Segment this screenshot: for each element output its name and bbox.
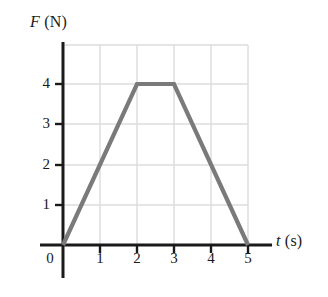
x-tick-label-5: 5	[239, 250, 257, 267]
force-time-chart: F (N) t (s) 0 1 2 3 4 5 1 2 3 4	[0, 0, 328, 297]
x-tick-label-1: 1	[91, 250, 109, 267]
x-axis	[40, 245, 272, 253]
y-tick-label-3: 3	[34, 115, 50, 132]
x-tick-label-0: 0	[41, 250, 59, 267]
x-tick-label-3: 3	[165, 250, 183, 267]
y-tick-label-4: 4	[34, 75, 50, 92]
x-axis-title: t (s)	[276, 232, 302, 250]
y-axis-unit: (N)	[44, 13, 67, 30]
gridlines	[63, 45, 248, 245]
y-axis-title: F (N)	[30, 13, 67, 31]
x-axis-unit: (s)	[285, 232, 302, 249]
x-tick-label-2: 2	[128, 250, 146, 267]
x-axis-variable: t	[276, 232, 281, 249]
x-tick-label-4: 4	[202, 250, 220, 267]
y-tick-label-2: 2	[34, 156, 50, 173]
y-tick-label-1: 1	[34, 196, 50, 213]
y-axis-variable: F	[30, 13, 40, 30]
